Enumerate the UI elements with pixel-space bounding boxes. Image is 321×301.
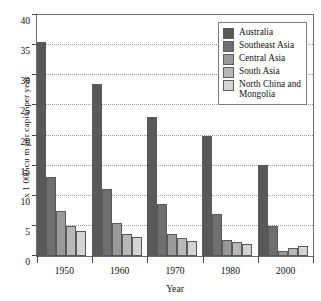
legend-label: South Asia bbox=[239, 66, 280, 76]
bar bbox=[258, 165, 268, 256]
legend: AustraliaSoutheast AsiaCentral AsiaSouth… bbox=[218, 22, 307, 105]
y-tick bbox=[32, 74, 37, 75]
y-tick bbox=[32, 104, 37, 105]
bar bbox=[66, 226, 76, 256]
legend-label: Southeast Asia bbox=[239, 40, 294, 50]
y-tick bbox=[32, 14, 37, 15]
legend-item: South Asia bbox=[223, 66, 301, 78]
bar bbox=[268, 226, 278, 256]
bar bbox=[288, 248, 298, 256]
x-axis-title: Year bbox=[36, 283, 314, 294]
bar bbox=[147, 117, 157, 256]
bar bbox=[242, 244, 252, 256]
bar bbox=[177, 238, 187, 256]
y-tick bbox=[32, 165, 37, 166]
bar bbox=[112, 223, 122, 256]
bar bbox=[157, 204, 167, 256]
y-tick bbox=[32, 195, 37, 196]
legend-swatch bbox=[223, 28, 234, 39]
bar bbox=[132, 237, 142, 256]
x-tick bbox=[203, 256, 204, 263]
x-tick-label: 1950 bbox=[55, 265, 74, 276]
legend-label: North China and Mongolia bbox=[239, 79, 301, 100]
legend-swatch bbox=[223, 54, 234, 65]
x-tick bbox=[313, 256, 314, 263]
legend-swatch bbox=[223, 67, 234, 78]
bar bbox=[46, 177, 56, 256]
bar-group bbox=[92, 15, 148, 256]
x-tick bbox=[37, 256, 38, 263]
legend-label: Australia bbox=[239, 27, 273, 37]
bar bbox=[298, 246, 308, 256]
bar-chart: x 1 000 cu m per capita per year 0510152… bbox=[0, 0, 321, 301]
bar bbox=[232, 242, 242, 256]
bar-group bbox=[37, 15, 92, 256]
bar bbox=[76, 231, 86, 256]
legend-swatch bbox=[223, 80, 234, 91]
x-tick bbox=[92, 256, 93, 263]
x-tick-label: 1980 bbox=[221, 265, 240, 276]
legend-item: Australia bbox=[223, 27, 301, 39]
bar bbox=[37, 42, 46, 256]
bar bbox=[202, 136, 212, 257]
legend-item: North China and Mongolia bbox=[223, 79, 301, 100]
y-tick bbox=[32, 44, 37, 45]
bar bbox=[278, 251, 288, 256]
bar bbox=[102, 189, 112, 256]
bar-group bbox=[147, 15, 203, 256]
bar bbox=[167, 234, 177, 256]
bar bbox=[56, 211, 66, 256]
y-tick bbox=[32, 225, 37, 226]
x-tick-label: 1960 bbox=[110, 265, 129, 276]
bar bbox=[187, 241, 197, 256]
y-tick bbox=[32, 135, 37, 136]
legend-item: Southeast Asia bbox=[223, 40, 301, 52]
bar bbox=[222, 240, 232, 256]
legend-label: Central Asia bbox=[239, 53, 285, 63]
legend-item: Central Asia bbox=[223, 53, 301, 65]
x-tick bbox=[147, 256, 148, 263]
bar bbox=[212, 214, 222, 256]
bar bbox=[122, 234, 132, 256]
x-tick-label: 1970 bbox=[165, 265, 184, 276]
x-tick-label: 2000 bbox=[276, 265, 295, 276]
x-tick bbox=[258, 256, 259, 263]
bar bbox=[92, 84, 102, 256]
legend-swatch bbox=[223, 41, 234, 52]
